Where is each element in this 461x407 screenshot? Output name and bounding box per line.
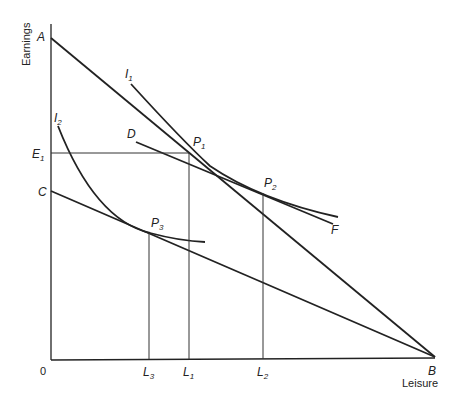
indifference-curve-i2 bbox=[58, 126, 205, 242]
point-d-label: D bbox=[127, 127, 136, 141]
point-c-label: C bbox=[38, 185, 47, 199]
tick-l3-label: L3 bbox=[143, 365, 155, 381]
point-p3-label: P3 bbox=[151, 216, 164, 232]
budget-line-ab bbox=[51, 38, 435, 357]
point-p2-label: P2 bbox=[264, 176, 277, 192]
tick-l1-label: L1 bbox=[183, 365, 194, 381]
y-axis-label: Earnings bbox=[20, 22, 32, 66]
origin-label: 0 bbox=[40, 365, 46, 377]
budget-line-cb bbox=[51, 191, 435, 357]
budget-constraint-diagram: Earnings Leisure 0 A C D F B E1 P1 P2 P3… bbox=[0, 0, 461, 407]
point-a-label: A bbox=[36, 30, 45, 44]
point-p1-label: P1 bbox=[193, 135, 205, 151]
curve-i1-label: I1 bbox=[125, 67, 133, 83]
point-e1-label: E1 bbox=[32, 147, 44, 163]
point-b-label: B bbox=[428, 364, 436, 378]
x-axis-label: Leisure bbox=[402, 377, 438, 389]
point-f-label: F bbox=[331, 223, 339, 237]
curve-i2-label: I2 bbox=[54, 111, 62, 127]
tick-l2-label: L2 bbox=[257, 365, 269, 381]
x-axis bbox=[51, 358, 435, 360]
indifference-curve-i1 bbox=[131, 84, 338, 217]
budget-line-df bbox=[136, 142, 333, 224]
